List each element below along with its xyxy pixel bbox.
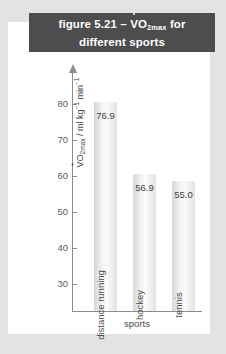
title-prefix: figure 5.21 – — [58, 18, 130, 30]
y-axis-rest: / ml kg — [75, 109, 85, 138]
y-tick-label-70: 70 — [57, 134, 68, 145]
bar-tennis: 55.0 tennis — [172, 181, 195, 311]
title-subscript: 2max — [147, 23, 167, 32]
bar-category-hockey: hockey — [134, 290, 145, 320]
y-tick-label-60: 60 — [57, 170, 68, 181]
y-tick-40: 40 — [72, 248, 77, 249]
y-tick-80: 80 — [72, 104, 77, 105]
y-tick-label-80: 80 — [57, 98, 68, 109]
y-tick-label-50: 50 — [57, 206, 68, 217]
title-o: O — [138, 18, 147, 30]
y-tick-70: 70 — [72, 140, 77, 141]
bar-value-hockey: 56.9 — [135, 182, 154, 193]
title-suffix: for — [167, 18, 186, 30]
x-axis-title: sports — [72, 318, 202, 329]
y-axis-o: O — [75, 154, 85, 161]
chart-page: figure 5.21 – VO2max for different sport… — [0, 0, 226, 354]
y-axis-mid: min — [75, 85, 85, 102]
y-tick-50: 50 — [72, 212, 77, 213]
bar-value-tennis: 55.0 — [174, 189, 193, 200]
bar-category-distance-running: distance running — [95, 270, 106, 340]
title-v: V — [130, 18, 138, 30]
y-tick-30: 30 — [72, 284, 77, 285]
bar-hockey: 56.9 hockey — [133, 174, 156, 311]
y-axis-subscript: 2max — [79, 138, 86, 154]
y-tick-label-40: 40 — [57, 242, 68, 253]
bar-distance-running: 76.9 distance running — [94, 102, 117, 311]
y-v-dot-symbol: V — [75, 161, 85, 167]
y-tick-60: 60 — [72, 176, 77, 177]
figure-title-text: figure 5.21 – VO2max for different sport… — [58, 17, 185, 49]
bar-category-tennis: tennis — [173, 292, 184, 317]
v-dot-symbol: V — [130, 17, 138, 31]
y-axis-sup-2: −1 — [73, 78, 80, 85]
y-axis-title: VO2max / ml kg−1 min−1 — [73, 48, 86, 198]
plot-area: VO2max / ml kg−1 min−1 80 70 60 50 40 30… — [8, 56, 210, 334]
y-axis-v: V — [75, 161, 85, 167]
bar-value-distance-running: 76.9 — [96, 110, 115, 121]
title-line2: different sports — [79, 36, 165, 48]
figure-title-banner: figure 5.21 – VO2max for different sport… — [29, 13, 215, 52]
y-tick-label-30: 30 — [57, 278, 68, 289]
